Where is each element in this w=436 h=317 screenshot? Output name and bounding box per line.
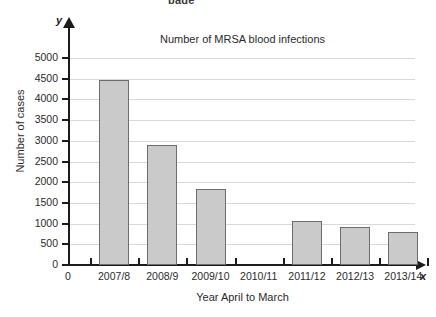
gridline [70, 58, 415, 59]
x-axis-tick-label: 2007/8 [90, 270, 138, 282]
x-axis-title: Year April to March [70, 291, 415, 303]
y-axis-tick-mark [62, 140, 70, 142]
y-axis-tick-label: 5000 [18, 51, 58, 63]
bar [388, 232, 418, 265]
y-axis-tick-mark [62, 161, 70, 163]
y-axis-title: Number of cases [14, 66, 26, 196]
bar [147, 145, 177, 265]
y-axis-tick-mark [62, 181, 70, 183]
y-axis-tick-mark [62, 57, 70, 59]
x-axis-tick-label: 2012/13 [331, 270, 379, 282]
x-axis-tick-label: 2013/14 [379, 270, 427, 282]
y-axis-tick-mark [62, 243, 70, 245]
y-axis-tick-mark [62, 119, 70, 121]
x-axis-tick-mark [379, 258, 381, 266]
bar [196, 189, 226, 265]
bar-chart: y x 050010001500200025003000350040004500… [0, 0, 436, 317]
y-axis-tick-mark [62, 202, 70, 204]
x-axis-tick-mark [283, 258, 285, 266]
x-axis-tick-mark [138, 258, 140, 266]
y-axis-letter: y [56, 14, 62, 26]
x-axis-tick-mark [90, 258, 92, 266]
x-axis-tick-label: 2011/12 [283, 270, 331, 282]
y-axis-line [68, 26, 70, 266]
x-axis-tick-label: 2010/11 [235, 270, 283, 282]
x-axis-tick-mark [331, 258, 333, 266]
bar [99, 80, 129, 265]
y-axis-tick-label: 1500 [18, 196, 58, 208]
x-axis-tick-mark [235, 258, 237, 266]
x-axis-origin-label: 0 [54, 270, 82, 282]
y-axis-tick-label: 1000 [18, 217, 58, 229]
bar [292, 221, 322, 265]
chart-title: Number of MRSA blood infections [70, 33, 415, 45]
bar [340, 227, 370, 265]
y-axis-tick-label: 0 [18, 258, 58, 270]
chart-page: page y x 0500100015002000250030003500400… [0, 0, 436, 317]
y-axis-tick-label: 500 [18, 237, 58, 249]
y-axis-tick-mark [62, 78, 70, 80]
y-axis-tick-mark [62, 264, 70, 266]
x-axis-tick-label: 2008/9 [138, 270, 186, 282]
y-axis-tick-mark [62, 98, 70, 100]
x-axis-tick-mark [427, 258, 429, 266]
x-axis-tick-mark [186, 258, 188, 266]
x-axis-tick-label: 2009/10 [187, 270, 235, 282]
y-axis-tick-mark [62, 223, 70, 225]
y-axis-arrow-icon [63, 17, 75, 28]
